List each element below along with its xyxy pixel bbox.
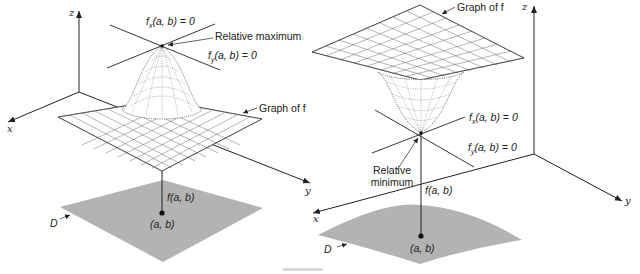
right-value-label: f(a, b)	[425, 185, 452, 196]
right-x-axis-label: x	[313, 214, 319, 224]
right-z-axis-label: z	[522, 2, 527, 12]
left-point-ab	[159, 210, 164, 215]
left-value-label: f(a, b)	[167, 192, 194, 203]
left-graph-label: Graph of f	[259, 103, 306, 114]
right-graph-leader	[442, 7, 455, 14]
right-y-axis-label: y	[625, 196, 631, 206]
left-fx-tail: (a, b) = 0	[152, 15, 194, 27]
right-domain-label: D	[324, 244, 332, 255]
right-x-axis	[313, 154, 534, 213]
right-y-axis	[534, 154, 622, 201]
left-domain-leader	[60, 215, 70, 219]
left-max-point	[160, 44, 164, 48]
right-graph-label: Graph of f	[457, 2, 504, 13]
figure-caption-fragment	[283, 268, 323, 271]
right-domain-leader	[337, 244, 347, 247]
left-extremum-label: Relative maximum	[215, 31, 301, 42]
left-fy-tail: (a, b) = 0	[214, 49, 256, 61]
right-point-ab	[418, 233, 423, 238]
right-panel	[312, 5, 622, 264]
right-fy-tail: (a, b) = 0	[474, 141, 516, 153]
left-fx-label: fx(a, b) = 0	[146, 16, 195, 29]
right-extremum-label: Relativeminimum	[362, 165, 422, 188]
left-graph-leader	[243, 108, 257, 113]
right-fy-label: fy(a, b) = 0	[468, 142, 517, 155]
right-point-label: (a, b)	[410, 243, 435, 254]
left-max-leader	[168, 38, 213, 45]
right-fx-label: fx(a, b) = 0	[469, 112, 518, 125]
right-extremum-line2: minimum	[371, 176, 414, 188]
left-y-axis-label: y	[305, 186, 311, 196]
left-domain-label: D	[50, 218, 58, 229]
right-fx-tail: (a, b) = 0	[475, 111, 517, 123]
figure-drawing	[0, 0, 640, 274]
figure-stage: z x y fx(a, b) = 0 Relative maximum fy(a…	[0, 0, 640, 274]
left-fy-label: fy(a, b) = 0	[208, 50, 257, 63]
left-x-axis-label: x	[7, 124, 13, 134]
left-point-label: (a, b)	[150, 219, 175, 230]
left-z-axis-label: z	[69, 8, 74, 18]
right-extremum-line1: Relative	[373, 164, 411, 176]
